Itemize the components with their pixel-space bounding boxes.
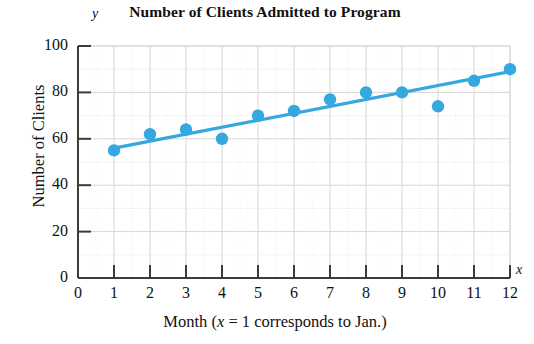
data-point (288, 105, 300, 117)
data-point (180, 123, 192, 135)
data-point (432, 100, 444, 112)
data-point (108, 144, 120, 156)
data-point (396, 86, 408, 98)
data-point (216, 133, 228, 145)
chart-figure: Number of Clients Admitted to Program y … (0, 0, 534, 344)
data-point (144, 128, 156, 140)
data-point (468, 75, 480, 87)
data-point (504, 63, 516, 75)
data-point (252, 109, 264, 121)
data-point (360, 86, 372, 98)
data-point (324, 93, 336, 105)
plot-area (0, 0, 534, 344)
